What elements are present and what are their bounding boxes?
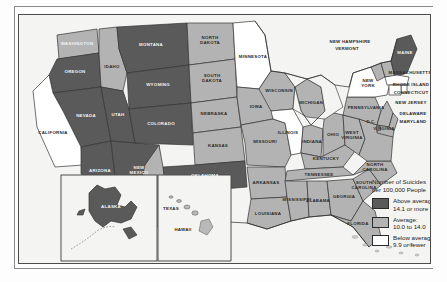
page-border-bottom <box>14 268 433 269</box>
legend-entry-below-average: Below average: 9.9 or fewer <box>372 234 431 249</box>
state-indiana <box>301 125 323 157</box>
state-north-dakota <box>187 23 235 65</box>
state-montana <box>117 23 189 73</box>
map-legend: Number of Suicides per 100,000 People Ab… <box>368 178 431 249</box>
hawaii-inset-group <box>158 175 231 261</box>
legend-swatch-below-average <box>372 235 389 246</box>
alaska-inset-group <box>61 175 157 261</box>
state-connecticut <box>389 85 401 95</box>
legend-title-line2: per 100,000 People <box>372 186 431 194</box>
legend-label-above-average-line2: 14.1 or more <box>393 205 431 213</box>
legend-swatch-above-average <box>372 198 389 209</box>
state-district-of-columbia <box>376 126 381 131</box>
state-south-dakota <box>189 59 237 103</box>
legend-label-average-line2: 10.0 to 14.0 <box>393 223 426 231</box>
legend-label-below-average-line1: Below average: <box>393 234 431 242</box>
legend-label-below-average-line2: 9.9 or fewer <box>393 241 431 249</box>
state-massachusetts <box>385 75 409 85</box>
legend-title-line1: Number of Suicides <box>372 178 431 186</box>
page-border-top <box>14 6 433 7</box>
state-colorado <box>129 103 193 145</box>
state-wyoming <box>127 65 191 109</box>
page-border-left <box>14 6 15 268</box>
state-missouri <box>241 119 291 167</box>
page-canvas: .st{stroke:#333;stroke-width:.7;} .cA{fi… <box>0 0 447 282</box>
legend-label-above-average-line1: Above average: <box>393 197 431 205</box>
legend-entry-above-average: Above average: 14.1 or more <box>372 197 431 212</box>
legend-label-average-line1: Average: <box>393 216 426 224</box>
map-frame: .st{stroke:#333;stroke-width:.7;} .cA{fi… <box>18 14 431 264</box>
state-arkansas <box>247 167 287 199</box>
state-kansas <box>193 127 245 165</box>
state-rhode-island <box>401 85 407 93</box>
state-oregon <box>49 53 101 93</box>
legend-entry-average: Average: 10.0 to 14.0 <box>372 216 431 231</box>
legend-swatch-average <box>372 217 389 228</box>
